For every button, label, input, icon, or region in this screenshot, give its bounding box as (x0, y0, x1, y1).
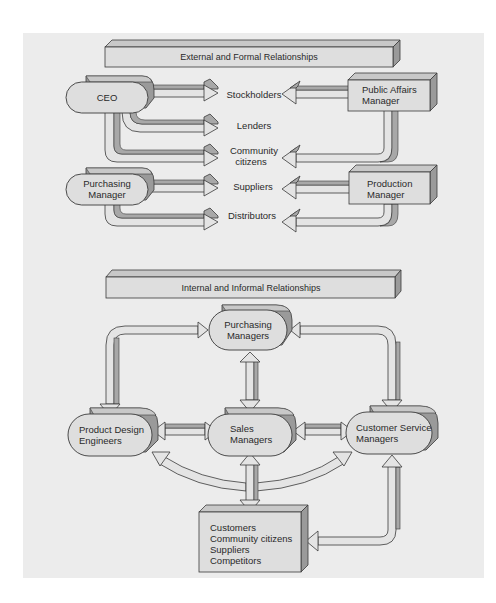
production-manager-label-line1: Production (367, 178, 412, 189)
purchasing-managers-label-line2: Managers (227, 330, 269, 341)
purchasing-managers-label-line1: Purchasing (224, 319, 272, 330)
relationships-diagram: External and Formal Relationships CEO St… (0, 0, 496, 603)
customer-service-managers-node: Customer Service Managers (346, 406, 438, 454)
internal-title: Internal and Informal Relationships (181, 283, 321, 293)
purchasing-manager-label-line1: Purchasing (83, 178, 131, 189)
lenders-label: Lenders (237, 120, 272, 131)
customer-service-label-line2: Managers (356, 433, 398, 444)
arrow-purchasing-sales (240, 352, 260, 412)
public-affairs-label-line2: Manager (362, 95, 400, 106)
external-stakeholders-box: Customers Community citizens Suppliers C… (199, 505, 308, 572)
external-title: External and Formal Relationships (180, 52, 318, 62)
customer-service-label-line1: Customer Service (356, 422, 432, 433)
stockholders-label: Stockholders (227, 89, 282, 100)
ceo-label: CEO (97, 92, 118, 103)
external-box-item-customers: Customers (210, 522, 256, 533)
production-manager-label-line2: Manager (367, 189, 405, 200)
ceo-node: CEO (66, 76, 154, 113)
purchasing-manager-node: Purchasing Manager (66, 168, 154, 205)
arrow-product-design-sales (153, 422, 217, 440)
production-manager-node: Production Manager (349, 165, 437, 204)
sales-managers-label-line2: Managers (230, 434, 272, 445)
arrow-purchasing-product-design (100, 322, 208, 416)
internal-title-bar: Internal and Informal Relationships (106, 270, 401, 298)
community-label-line2: citizens (235, 156, 267, 167)
public-affairs-node: Public Affairs Manager (348, 73, 437, 111)
purchasing-managers-node: Purchasing Managers (209, 305, 292, 350)
sales-managers-label-line1: Sales (230, 423, 254, 434)
product-design-engineers-node: Product Design Engineers (68, 408, 158, 456)
distributors-label: Distributors (228, 210, 276, 221)
purchasing-manager-label-line2: Manager (88, 189, 126, 200)
arrow-sales-customer-service (293, 422, 353, 440)
sales-managers-node: Sales Managers (208, 408, 296, 456)
external-title-bar: External and Formal Relationships (105, 40, 400, 67)
arrow-purchasing-customer-service (290, 322, 402, 412)
community-label-line1: Community (230, 145, 278, 156)
public-affairs-label-line1: Public Affairs (362, 84, 417, 95)
product-design-label-line1: Product Design (79, 424, 144, 435)
external-box-item-competitors: Competitors (210, 555, 261, 566)
product-design-label-line2: Engineers (79, 435, 122, 446)
external-box-item-community: Community citizens (210, 533, 293, 544)
external-box-item-suppliers: Suppliers (210, 544, 250, 555)
suppliers-label: Suppliers (233, 181, 273, 192)
